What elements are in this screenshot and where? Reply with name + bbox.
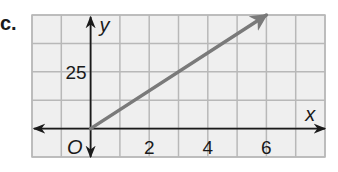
y-tick-label: 25 bbox=[65, 62, 86, 83]
x-axis-label: x bbox=[304, 103, 316, 125]
x-tick-label: 6 bbox=[261, 137, 272, 158]
coordinate-graph: 24625Oxy bbox=[0, 0, 338, 172]
y-axis-label: y bbox=[98, 14, 111, 36]
x-tick-label: 2 bbox=[144, 137, 155, 158]
x-tick-label: 4 bbox=[203, 137, 214, 158]
origin-label: O bbox=[67, 136, 83, 158]
